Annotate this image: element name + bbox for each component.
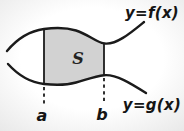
label-region-s: S	[72, 49, 84, 68]
area-between-curves-diagram: y=f(x) y=g(x) S a b	[0, 0, 184, 131]
label-top-curve: y=f(x)	[125, 4, 179, 22]
label-bottom-curve: y=g(x)	[123, 96, 181, 114]
label-bound-b: b	[96, 105, 107, 124]
label-bound-a: a	[37, 106, 48, 125]
diagram-canvas: y=f(x) y=g(x) S a b	[0, 0, 184, 131]
